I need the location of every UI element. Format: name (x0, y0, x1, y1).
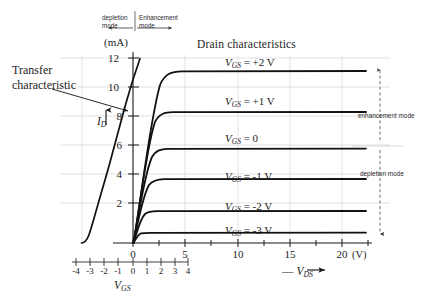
curve-label-symbol: V (225, 200, 232, 212)
x-tick-label: 10 (228, 248, 248, 260)
curve-label-symbol: V (225, 170, 232, 182)
x-tick-label: 0 (123, 248, 143, 260)
curve-label-value: = 0 (244, 132, 258, 144)
curve-label-value: = -3 V (244, 224, 273, 236)
vgs-tick-label: 3 (168, 266, 182, 276)
curve-label-symbol: V (225, 224, 232, 236)
curve-label-value: = -1 V (244, 170, 273, 182)
mode-top-enhancement-label: Enhancement mode (139, 14, 178, 30)
curve-label-subscript: GS (232, 205, 241, 214)
curve-label-symbol: V (225, 132, 232, 144)
mode-indicator-right (352, 70, 404, 234)
curve-label-subscript: GS (232, 100, 241, 109)
vgs-tick-label: 2 (154, 266, 168, 276)
y-tick-label: 2 (104, 197, 122, 209)
curve-label-subscript: GS (232, 175, 241, 184)
vgs-tick-label: -1 (111, 266, 125, 276)
curve-label-vgs-minus1: VGS = -1 V (225, 170, 272, 184)
curve-label-vgs-plus1: VGS = +1 V (225, 95, 275, 109)
mode-right-enhancement-label: enhancement mode (358, 112, 415, 119)
y-tick-label: 8 (104, 110, 122, 122)
transfer-label-line1: Transfer (12, 63, 52, 77)
curve-label-value: = -2 V (244, 200, 273, 212)
chart-title: Drain characteristics (197, 38, 296, 50)
y-tick-label: 10 (101, 81, 119, 93)
mode-top-depletion-line2: mode (102, 22, 118, 29)
x-tick-label: 20 (332, 248, 352, 260)
secondary-axis-symbol: V (114, 279, 121, 291)
vgs-tick-label: -4 (69, 266, 83, 276)
mode-top-enhancement-line1: Enhancement (139, 14, 178, 21)
y-tick-label: 4 (104, 168, 122, 180)
mode-right-depletion-label: depletion mode (360, 170, 404, 177)
x-axis-label: — VDS (282, 265, 313, 279)
vgs-tick-label: 0 (126, 266, 140, 276)
x-tick-label: 5 (175, 248, 195, 260)
curve-label-vgs-minus2: VGS = -2 V (225, 200, 272, 214)
x-tick-label: 15 (280, 248, 300, 260)
vgs-tick-label: -2 (97, 266, 111, 276)
transfer-characteristic-label: Transfer characteristic (12, 63, 76, 93)
x-axis-prefix: — (282, 265, 294, 277)
vgs-tick-label: -3 (83, 266, 97, 276)
voltage-unit-label: (V) (352, 249, 367, 260)
curve-label-vgs-plus2: VGS = +2 V (225, 56, 275, 70)
vgs-tick-label: 1 (140, 266, 154, 276)
curve-label-symbol: V (225, 95, 232, 107)
curve-label-value: = +1 V (244, 95, 275, 107)
curve-label-subscript: GS (232, 229, 241, 238)
curve-label-subscript: GS (232, 137, 241, 146)
x-axis-subscript: DS (303, 270, 313, 279)
mode-top-depletion-label: depletion mode (102, 14, 128, 30)
y-tick-label: 12 (101, 52, 119, 64)
mode-top-enhancement-line2: mode (139, 22, 155, 29)
secondary-axis-subscript: GS (121, 284, 131, 293)
current-unit-label: (mA) (104, 37, 128, 49)
y-tick-label: 6 (104, 139, 122, 151)
secondary-axis-label: VGS (114, 279, 131, 293)
mode-top-depletion-line1: depletion (102, 14, 128, 21)
transfer-label-line2: characteristic (12, 78, 76, 92)
vgs-tick-label: 4 (181, 266, 195, 276)
curve-label-value: = +2 V (244, 56, 275, 68)
curve-label-subscript: GS (232, 61, 241, 70)
curve-label-symbol: V (225, 56, 232, 68)
curve-label-vgs-zero: VGS = 0 (225, 132, 258, 146)
jfet-characteristics-figure: Drain characteristics Transfer character… (0, 0, 431, 307)
curve-label-vgs-minus3: VGS = -3 V (225, 224, 272, 238)
